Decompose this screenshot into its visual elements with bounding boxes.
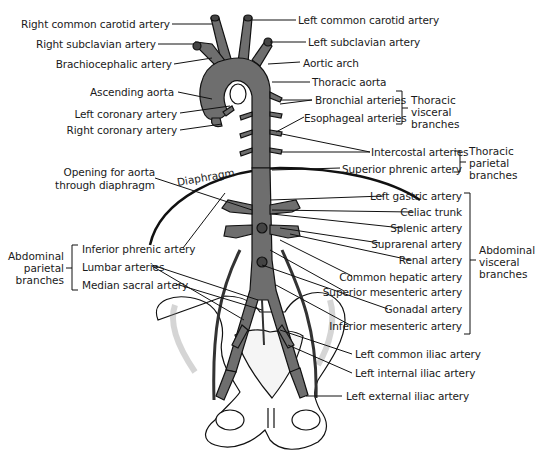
label-opening-line2: through diaphragm (0, 179, 155, 191)
label-renal: Renal artery (300, 254, 462, 266)
group-thoracic-parietal: Thoracic parietal branches (469, 145, 517, 181)
label-median-sacral: Median sacral artery (82, 279, 188, 291)
label-thoracic-aorta: Thoracic aorta (312, 76, 386, 88)
group-line: visceral (479, 256, 535, 268)
label-left-external-iliac: Left external iliac artery (346, 390, 469, 402)
group-line: branches (0, 274, 64, 286)
group-line: Thoracic (469, 145, 517, 157)
label-celiac-trunk: Celiac trunk (300, 206, 462, 218)
group-line: parietal (0, 262, 64, 274)
group-abdominal-parietal: Abdominal parietal branches (0, 250, 64, 286)
label-superior-mesenteric: Superior mesenteric artery (300, 286, 462, 298)
group-line: visceral (411, 106, 459, 118)
label-left-common-iliac: Left common iliac artery (355, 348, 481, 360)
group-line: Thoracic (411, 94, 459, 106)
label-suprarenal: Suprarenal artery (300, 238, 462, 250)
group-abdominal-visceral: Abdominal visceral branches (479, 244, 535, 280)
label-left-subclavian: Left subclavian artery (308, 36, 420, 48)
aorta-diagram: Right common carotid artery Right subcla… (0, 0, 544, 460)
label-lumbar: Lumbar arteries (82, 261, 164, 273)
group-line: branches (469, 169, 517, 181)
group-line: branches (411, 118, 459, 130)
group-line: parietal (469, 157, 517, 169)
label-left-coronary: Left coronary artery (0, 108, 177, 120)
group-line: branches (479, 268, 535, 280)
label-inferior-phrenic: Inferior phrenic artery (82, 243, 195, 255)
label-splenic: Splenic artery (300, 222, 462, 234)
label-left-internal-iliac: Left internal iliac artery (355, 367, 475, 379)
label-gonadal: Gonadal artery (300, 303, 462, 315)
label-superior-phrenic: Superior phrenic artery (342, 163, 462, 175)
label-right-subclavian: Right subclavian artery (0, 38, 156, 50)
label-right-common-carotid: Right common carotid artery (0, 18, 170, 30)
label-left-gastric: Left gastric artery (300, 190, 462, 202)
label-ascending-aorta: Ascending aorta (0, 86, 174, 98)
label-bronchial: Bronchial arteries (315, 94, 406, 106)
label-common-hepatic: Common hepatic artery (300, 271, 462, 283)
group-line: Abdominal (0, 250, 64, 262)
label-brachiocephalic: Brachiocephalic artery (0, 58, 172, 70)
label-left-common-carotid: Left common carotid artery (298, 14, 439, 26)
label-right-coronary: Right coronary artery (0, 124, 177, 136)
group-line: Abdominal (479, 244, 535, 256)
label-inferior-mesenteric: Inferior mesenteric artery (300, 320, 462, 332)
group-thoracic-visceral: Thoracic visceral branches (411, 94, 459, 130)
label-esophageal: Esophageal arteries (304, 112, 407, 124)
label-intercostal: Intercostal arteries (371, 146, 468, 158)
label-aortic-arch: Aortic arch (303, 57, 359, 69)
label-opening-line1: Opening for aorta (0, 166, 155, 178)
